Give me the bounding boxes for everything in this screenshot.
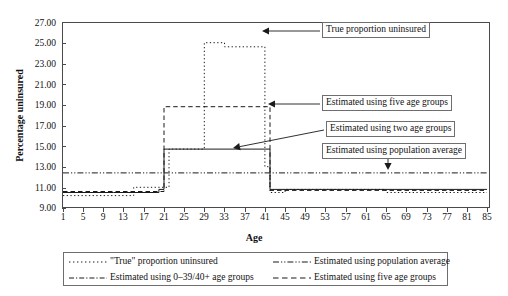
legend-label: "True" proportion uninsured xyxy=(110,256,218,267)
legend-item-two-age-groups: Estimated using 0–39/40+ age groups xyxy=(68,270,254,285)
legend-key-dotted xyxy=(68,256,108,267)
legend-item-five-age-groups: Estimated using five age groups xyxy=(272,270,436,285)
legend-label: Estimated using 0–39/40+ age groups xyxy=(110,272,254,283)
callout-arrow-five-age-groups-arrowhead xyxy=(268,100,275,107)
legend-label: Estimated using population average xyxy=(314,256,450,267)
callout-two-age-groups: Estimated using two age groups xyxy=(326,121,455,137)
legend-item-population-average: Estimated using population average xyxy=(272,254,450,269)
callout-arrow-two-age-groups-leader xyxy=(240,130,324,147)
legend-label: Estimated using five age groups xyxy=(314,272,436,283)
callout-population-average: Estimated using population average xyxy=(322,143,466,159)
callout-true-proportion: True proportion uninsured xyxy=(322,22,430,38)
chart-legend: "True" proportion uninsured Estimated us… xyxy=(63,252,448,286)
legend-key-dashed xyxy=(272,272,312,283)
legend-key-dash-dot xyxy=(272,256,312,267)
chart-figure: 27.00 25.00 23.00 21.00 19.00 17.00 15.0… xyxy=(0,0,508,296)
callout-arrow-true-proportion-arrowhead xyxy=(262,27,269,34)
callout-arrow-population-average-arrowhead xyxy=(384,163,391,170)
callout-five-age-groups: Estimated using five age groups xyxy=(322,95,452,111)
legend-item-true-proportion: "True" proportion uninsured xyxy=(68,254,218,269)
legend-key-dash-dot-dot xyxy=(68,272,108,283)
